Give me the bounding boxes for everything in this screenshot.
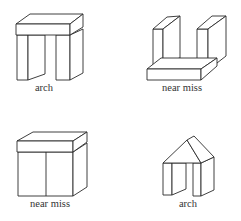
example-label: near miss (30, 198, 70, 209)
ground-slab-block (147, 58, 217, 80)
example-label: arch (35, 82, 54, 93)
top-slab-block (16, 14, 83, 35)
left-post-block (17, 35, 45, 80)
example-near-miss-1: near miss (147, 16, 226, 93)
example-near-miss-2: near miss (17, 132, 87, 209)
example-arch-1: arch (16, 14, 83, 93)
example-label: arch (179, 198, 198, 209)
example-label: near miss (162, 82, 202, 93)
top-slab-block (17, 132, 87, 152)
left-post-block (163, 163, 186, 195)
example-arch-2: arch (163, 136, 214, 209)
right-post-block (56, 29, 83, 80)
figure-canvas: arch near miss ne (0, 0, 241, 221)
wedge-roof-block (163, 136, 214, 163)
